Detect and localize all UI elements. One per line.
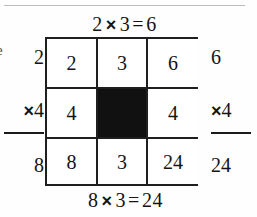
equation-top: 2×3=6 xyxy=(0,14,257,35)
equals-icon: = xyxy=(130,13,146,35)
multiply-icon: × xyxy=(211,101,222,121)
grid-cell: 3 xyxy=(98,139,148,184)
side-right-top-operand: 6 xyxy=(211,47,221,67)
grid-cell: 3 xyxy=(98,39,148,89)
side-left-top-operand: 2 xyxy=(34,47,44,67)
multiply-icon: × xyxy=(103,15,120,35)
multiply-icon: × xyxy=(99,191,116,211)
equation-bottom-right-operand: 3 xyxy=(116,189,127,211)
side-right-operator-row: ×4 xyxy=(211,100,232,121)
side-left-result: 8 xyxy=(34,155,44,175)
side-right-result: 24 xyxy=(211,155,231,175)
multiplication-grid: 236448324 xyxy=(45,37,198,186)
grid-cell-filled xyxy=(98,89,148,139)
equation-top-right-operand: 3 xyxy=(120,13,131,35)
side-left-rule xyxy=(4,132,44,134)
side-left-operator-row: ×4 xyxy=(23,100,44,121)
grid-cell: 4 xyxy=(47,89,98,139)
page-top-rule xyxy=(4,5,245,6)
grid-cell: 6 xyxy=(148,39,198,89)
grid-cell: 8 xyxy=(47,139,98,184)
side-calculation-left: 2 ×4 8 xyxy=(0,40,46,186)
grid-cell: 4 xyxy=(148,89,198,139)
grid-cell: 24 xyxy=(148,139,198,184)
side-right-multiplier: 4 xyxy=(222,99,232,121)
side-left-multiplier: 4 xyxy=(34,99,44,121)
equation-top-result: 6 xyxy=(146,13,157,35)
multiply-icon: × xyxy=(23,101,34,121)
side-calculation-right: 6 ×4 24 xyxy=(207,40,253,186)
equation-bottom: 8×3=24 xyxy=(0,190,257,211)
equals-icon: = xyxy=(126,189,142,211)
side-right-rule xyxy=(211,132,251,134)
equation-bottom-result: 24 xyxy=(142,189,163,211)
equation-top-left-operand: 2 xyxy=(92,13,103,35)
multiplication-grid-figure: e 2×3=6 2 ×4 8 6 ×4 24 236448324 8×3=24 xyxy=(0,0,257,217)
grid-cell: 2 xyxy=(47,39,98,89)
equation-bottom-left-operand: 8 xyxy=(88,189,99,211)
